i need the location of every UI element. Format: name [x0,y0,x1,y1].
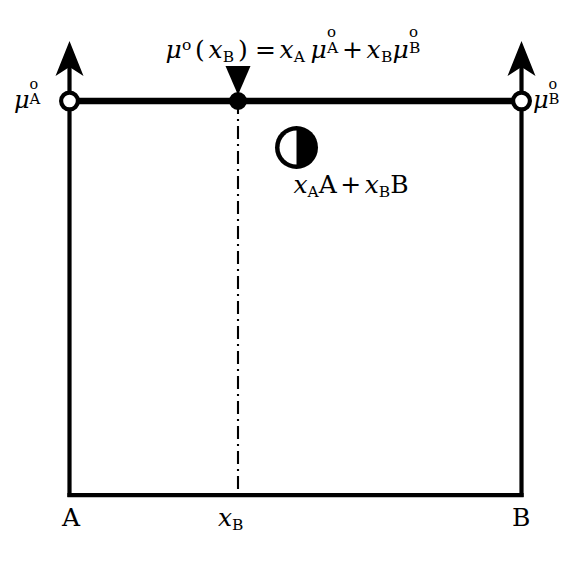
half-filled-circle-icon [275,126,318,169]
diagram-canvas: μo(xB)=xA μoA+xBμoB μoA μoB xAA+xBB A xB… [0,0,586,561]
axis-tick-label-xb: xB [218,505,244,534]
axis-tick-label-a: A [62,505,80,530]
midpoint-filled-circle-marker [230,93,246,109]
mu-standard-a-label: μoA [14,84,41,112]
mixing-equation-label: μo(xB)=xA μoA+xBμoB [166,33,421,66]
mixture-composition-label: xAA+xBB [293,172,408,201]
diagram-vector-layer [0,0,586,561]
down-arrow-head-icon [226,66,251,95]
mu-standard-b-label: μoB [533,84,560,112]
axis-tick-label-b: B [512,505,530,530]
right-endpoint-open-circle-marker [513,93,530,110]
left-endpoint-open-circle-marker [61,93,78,110]
